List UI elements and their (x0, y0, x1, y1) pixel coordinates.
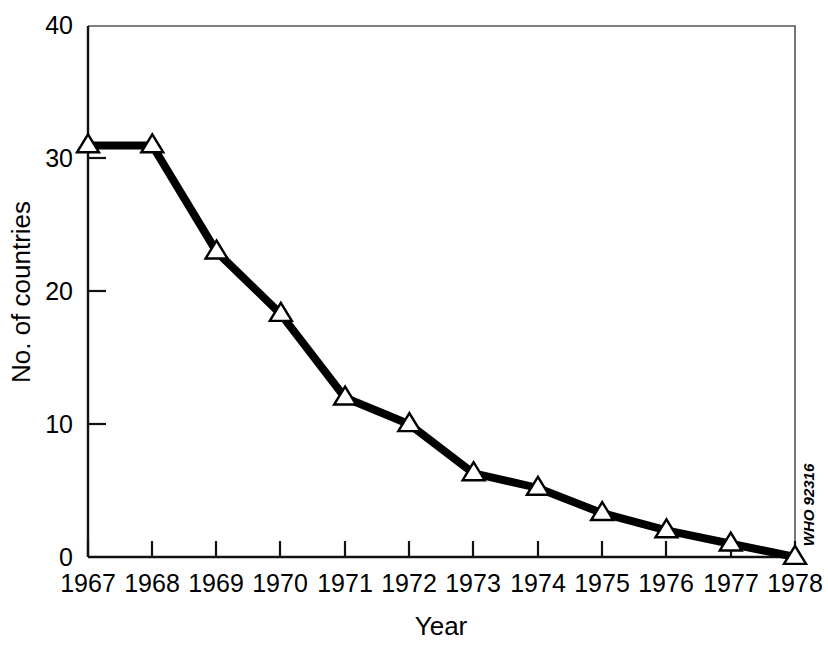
x-tick-label-1967: 1967 (60, 569, 116, 597)
y-tick-label-40: 40 (45, 11, 73, 39)
x-tick-label-1970: 1970 (252, 569, 308, 597)
x-tick-label-1971: 1971 (317, 569, 373, 597)
y-tick-labels: 40 30 20 10 0 (45, 11, 73, 571)
x-tick-label-1978: 1978 (767, 569, 823, 597)
x-tick-label-1968: 1968 (124, 569, 180, 597)
y-tick-label-30: 30 (45, 144, 73, 172)
who-credit-label: WHO 92316 (800, 463, 817, 546)
y-tick-label-0: 0 (59, 543, 73, 571)
chart-figure: 40 30 20 10 0 1967 1968 1969 1970 (0, 0, 828, 658)
line-chart: 40 30 20 10 0 1967 1968 1969 1970 (0, 0, 828, 658)
x-axis-title: Year (415, 611, 468, 641)
series-line-no-of-countries (88, 145, 795, 557)
y-tick-marks (88, 158, 106, 424)
x-tick-label-1974: 1974 (510, 569, 566, 597)
x-tick-label-1976: 1976 (638, 569, 694, 597)
x-tick-label-1975: 1975 (574, 569, 630, 597)
y-tick-label-10: 10 (45, 410, 73, 438)
x-tick-label-1972: 1972 (381, 569, 437, 597)
x-tick-label-1969: 1969 (188, 569, 244, 597)
y-tick-label-20: 20 (45, 277, 73, 305)
plot-frame-top-right (88, 26, 795, 557)
x-tick-label-1977: 1977 (703, 569, 759, 597)
y-axis-title: No. of countries (6, 201, 36, 383)
x-tick-labels: 1967 1968 1969 1970 1971 1972 1973 1974 … (60, 569, 823, 597)
x-tick-marks (88, 541, 795, 557)
x-tick-label-1973: 1973 (445, 569, 501, 597)
